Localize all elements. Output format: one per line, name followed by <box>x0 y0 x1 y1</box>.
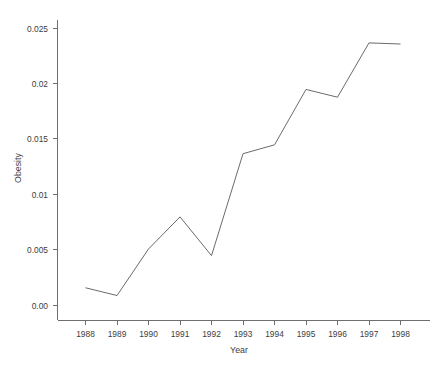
y-tick-label: 0.025 <box>27 24 48 34</box>
obesity-series-line <box>86 43 401 296</box>
line-chart: 0.025 0.02 0.015 0.01 0.005 0.00 1988 19… <box>0 0 445 369</box>
x-tick-label: 1989 <box>108 329 127 339</box>
x-tick-label: 1992 <box>202 329 221 339</box>
x-tick-label: 1996 <box>328 329 347 339</box>
x-tick-label: 1988 <box>76 329 95 339</box>
x-tick-label: 1998 <box>391 329 410 339</box>
x-axis-title: Year <box>230 345 248 355</box>
x-tick-label: 1997 <box>360 329 379 339</box>
y-tick-labels: 0.025 0.02 0.015 0.01 0.005 0.00 <box>27 24 48 311</box>
x-tick-label: 1993 <box>234 329 253 339</box>
y-tick-label: 0.015 <box>27 134 48 144</box>
y-tick-label: 0.01 <box>32 190 49 200</box>
y-tick-label: 0.02 <box>32 79 49 89</box>
x-tick-group <box>86 321 401 326</box>
y-tick-label: 0.00 <box>32 301 49 311</box>
x-tick-label: 1990 <box>139 329 158 339</box>
x-tick-label: 1994 <box>265 329 284 339</box>
y-tick-label: 0.005 <box>27 245 48 255</box>
caption-strip <box>0 360 445 369</box>
y-tick-group <box>53 29 58 306</box>
x-tick-label: 1991 <box>171 329 190 339</box>
y-axis-title: Obesity <box>13 152 23 182</box>
chart-figure: 0.025 0.02 0.015 0.01 0.005 0.00 1988 19… <box>0 0 445 369</box>
x-tick-label: 1995 <box>297 329 316 339</box>
x-tick-labels: 1988 1989 1990 1991 1992 1993 1994 1995 … <box>76 329 410 339</box>
